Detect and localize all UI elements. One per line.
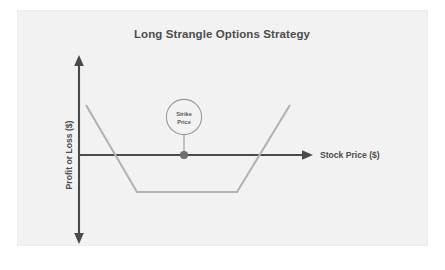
- strike-price-dot: [180, 151, 188, 159]
- arrow-down-icon: [74, 233, 84, 244]
- arrow-right-icon: [302, 150, 313, 160]
- strangle-payoff-chart: Long Strangle Options Strategy Strike Pr…: [0, 0, 445, 270]
- arrow-up-icon: [74, 55, 84, 66]
- strike-price-circle: [166, 99, 201, 134]
- x-axis-label: Stock Price ($): [320, 150, 380, 160]
- y-axis-label: Profit or Loss ($): [64, 120, 74, 189]
- screenshot-root: Long Strangle Options Strategy Strike Pr…: [0, 0, 445, 270]
- strike-price-label-line1: Strike: [176, 111, 192, 117]
- strike-price-label-line2: Price: [177, 119, 191, 125]
- chart-title: Long Strangle Options Strategy: [134, 28, 311, 40]
